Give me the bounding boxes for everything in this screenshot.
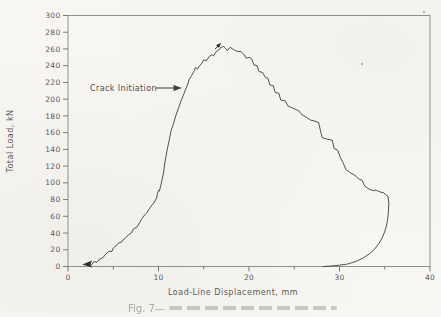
figure-caption-fragment: Fig. 7— — [128, 303, 428, 317]
y-tick-label: 0 — [55, 262, 60, 271]
y-tick-label: 140 — [45, 145, 60, 154]
annotation-arrowhead-icon — [174, 85, 183, 91]
x-tick-label: 10 — [153, 273, 163, 282]
x-axis-title: Load-Line Displacement, mm — [168, 288, 298, 297]
y-tick-label: 40 — [50, 229, 60, 238]
y-axis-title: Total Load, kN — [6, 109, 15, 173]
crack-initiation-annotation: Crack Initiation — [90, 84, 182, 93]
chart-generated-content: 0102030400204060801001201401601802002202… — [45, 11, 435, 281]
illegible-caption-smudge — [169, 306, 337, 310]
y-tick-label: 20 — [50, 245, 60, 254]
x-tick-label: 20 — [244, 273, 254, 282]
scan-speck — [361, 63, 363, 65]
y-tick-label: 60 — [50, 212, 60, 221]
y-tick-label: 280 — [45, 28, 60, 37]
plot-frame — [68, 16, 430, 267]
y-tick-label: 200 — [45, 95, 60, 104]
y-tick-label: 120 — [45, 162, 60, 171]
load-displacement-curve — [88, 47, 389, 267]
y-tick-label: 160 — [45, 128, 60, 137]
crack-initiation-label: Crack Initiation — [90, 84, 157, 93]
scan-speck — [423, 11, 425, 13]
y-tick-label: 100 — [45, 178, 60, 187]
y-tick-label: 180 — [45, 112, 60, 121]
y-tick-label: 300 — [45, 11, 60, 20]
x-tick-label: 40 — [425, 273, 435, 282]
y-tick-label: 80 — [50, 195, 60, 204]
y-tick-label: 260 — [45, 45, 60, 54]
y-tick-label: 220 — [45, 78, 60, 87]
figure-caption-prefix: Fig. 7— — [128, 303, 165, 314]
y-tick-label: 240 — [45, 61, 60, 70]
x-tick-label: 0 — [65, 273, 70, 282]
x-tick-label: 30 — [334, 273, 344, 282]
